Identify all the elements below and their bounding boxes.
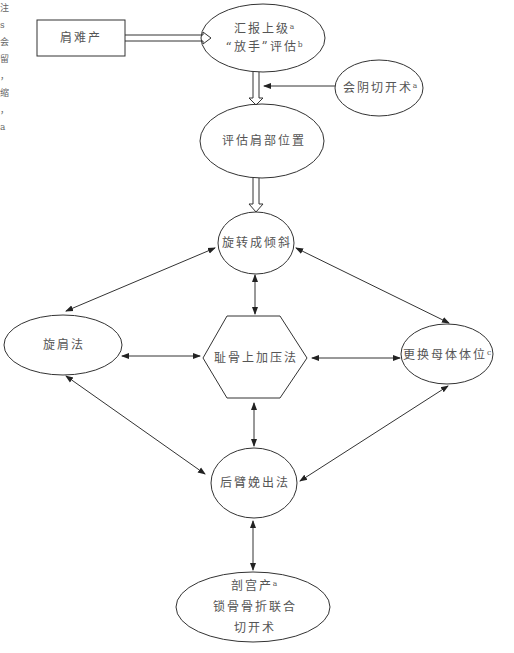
- flowchart-canvas: [0, 0, 514, 653]
- hollow-arrow-down: [249, 72, 263, 105]
- edge-oblique-position: [296, 248, 449, 323]
- label-line: 锁骨骨折联合: [213, 597, 297, 618]
- label-shoulder-dystocia: 肩难产: [60, 29, 102, 47]
- label-line: “放手”评估ᵇ: [225, 38, 304, 56]
- label-report: 汇报上级ᵃ “放手”评估ᵇ: [225, 20, 304, 56]
- edge-rotshoulder-posterior: [66, 376, 205, 474]
- label-line: 汇报上级ᵃ: [225, 20, 304, 38]
- label-line: 切开术: [213, 618, 297, 639]
- label-change-position: 更换母体体位ᶜ: [403, 346, 493, 364]
- label-posterior-arm: 后臂娩出法: [220, 474, 290, 492]
- edge-oblique-rotshoulder: [66, 248, 215, 311]
- hollow-arrow-down: [249, 178, 263, 212]
- label-cesarean: 剖宫产ᵃ 锁骨骨折联合 切开术: [213, 576, 297, 639]
- label-suprapubic: 耻骨上加压法: [214, 349, 298, 367]
- label-rotate-oblique: 旋转成倾斜: [222, 234, 292, 252]
- label-rotate-shoulder: 旋肩法: [43, 336, 85, 354]
- label-line: 剖宫产ᵃ: [213, 576, 297, 597]
- label-assess-position: 评估肩部位置: [222, 132, 306, 150]
- label-episiotomy: 会阴切开术ᵃ: [343, 79, 420, 97]
- hollow-arrow-right: [125, 32, 211, 44]
- edge-position-posterior: [300, 386, 448, 481]
